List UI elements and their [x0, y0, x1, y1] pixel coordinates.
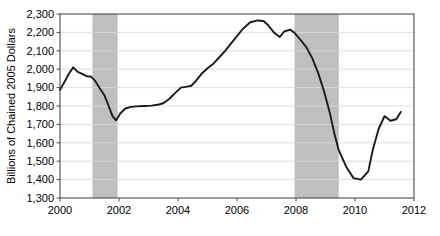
line-chart: 1,3001,4001,5001,6001,7001,8001,9002,000…	[0, 0, 440, 236]
y-tick-label-2200: 2,200	[26, 26, 54, 38]
y-tick-label-2300: 2,300	[26, 8, 54, 20]
y-tick-label-1300: 1,300	[26, 192, 54, 204]
x-tick-label-2008: 2008	[284, 204, 308, 216]
x-tick-label-2004: 2004	[166, 204, 190, 216]
x-tick-label-2010: 2010	[343, 204, 367, 216]
chart-figure: 1,3001,4001,5001,6001,7001,8001,9002,000…	[0, 0, 440, 236]
x-tick-label-2006: 2006	[225, 204, 249, 216]
y-tick-label-1600: 1,600	[26, 137, 54, 149]
y-tick-label-1800: 1,800	[26, 100, 54, 112]
y-tick-label-1900: 1,900	[26, 81, 54, 93]
x-tick-label-2012: 2012	[402, 204, 426, 216]
y-tick-label-2000: 2,000	[26, 63, 54, 75]
y-axis-title-label: Billions of Chained 2005 Dollars	[5, 28, 17, 184]
y-tick-label-1500: 1,500	[26, 155, 54, 167]
x-axis-tick-labels: 2000200220042006200820102012	[48, 204, 426, 216]
x-tick-label-2000: 2000	[48, 204, 72, 216]
x-tick-label-2002: 2002	[107, 204, 131, 216]
y-axis-title: Billions of Chained 2005 Dollars	[5, 28, 17, 184]
y-tick-label-2100: 2,100	[26, 45, 54, 57]
y-axis-tick-labels: 1,3001,4001,5001,6001,7001,8001,9002,000…	[26, 8, 54, 204]
y-tick-label-1700: 1,700	[26, 118, 54, 130]
y-tick-label-1400: 1,400	[26, 173, 54, 185]
